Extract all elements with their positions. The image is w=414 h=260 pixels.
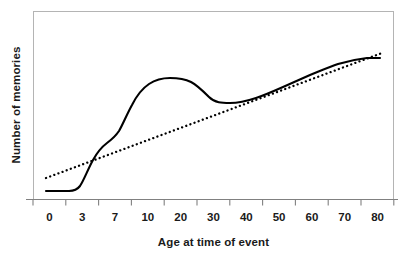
x-tick-label: 3 <box>66 210 99 226</box>
x-tick-label: 50 <box>263 210 296 226</box>
x-tick-label: 7 <box>99 210 132 226</box>
x-tick-label: 20 <box>164 210 197 226</box>
x-tick-label: 30 <box>197 210 230 226</box>
x-tick-label: 80 <box>361 210 394 226</box>
plot-area <box>33 11 394 200</box>
x-axis <box>20 198 404 210</box>
x-tick-label: 0 <box>33 210 66 226</box>
series-linear-trend <box>46 53 382 178</box>
x-tick-label: 40 <box>230 210 263 226</box>
y-axis-title: Number of memories <box>9 5 23 205</box>
x-axis-title: Age at time of event <box>33 235 394 249</box>
x-tick-label: 10 <box>131 210 164 226</box>
x-tick-label: 70 <box>328 210 361 226</box>
series-memory-distribution <box>46 58 380 191</box>
x-axis-tick-marks <box>33 200 394 206</box>
chart-container: Number of memories 0 3 7 10 <box>0 0 414 260</box>
x-axis-tick-labels: 0 3 7 10 20 30 40 50 60 70 80 <box>33 210 394 226</box>
x-tick-label: 60 <box>296 210 329 226</box>
